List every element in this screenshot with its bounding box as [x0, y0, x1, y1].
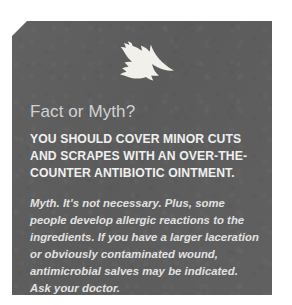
callout-title: Fact or Myth? [30, 103, 260, 122]
callout-claim-statement: YOU SHOULD COVER MINOR CUTS AND SCRAPES … [30, 131, 260, 183]
callout-answer-text: Myth. It's not necessary. Plus, some peo… [30, 195, 260, 295]
fact-or-myth-callout: Fact or Myth? YOU SHOULD COVER MINOR CUT… [12, 21, 272, 295]
leaf-icon [104, 37, 182, 89]
callout-text-block: Fact or Myth? YOU SHOULD COVER MINOR CUT… [30, 103, 260, 295]
